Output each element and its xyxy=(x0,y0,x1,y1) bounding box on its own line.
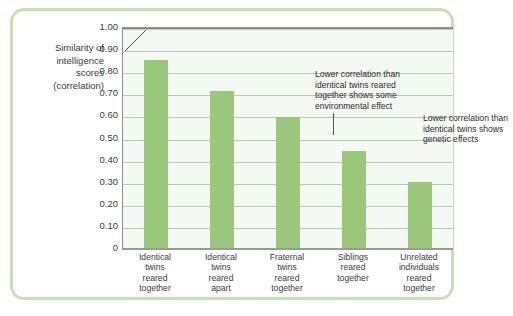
bar-slot xyxy=(321,29,387,250)
y-axis-tick-label: 0.30 xyxy=(88,176,118,187)
annotation-environmental-effect: Lower correlation than identical twins r… xyxy=(315,69,439,111)
bar xyxy=(210,91,234,250)
annotation-leader-line-0 xyxy=(333,113,334,135)
y-axis-tick-label: 0.50 xyxy=(88,132,118,143)
y-axis-tick-label: 0.80 xyxy=(88,65,118,76)
bar xyxy=(408,182,432,251)
x-axis-category-label: Siblings reared together xyxy=(320,252,386,283)
y-axis-tick-label: 0.70 xyxy=(88,87,118,98)
annotation-genetic-effects: Lower correlation than identical twins s… xyxy=(423,113,513,145)
x-axis-category-label: Fraternal twins reared together xyxy=(254,252,320,294)
bar xyxy=(342,151,366,250)
y-axis-tick-label: 0.40 xyxy=(88,154,118,165)
x-axis-category-label: Identical twins reared together xyxy=(122,252,188,294)
y-axis-tick-label: 1.00 xyxy=(88,21,118,32)
y-axis-tick-label: 0.90 xyxy=(88,43,118,54)
bar-slot xyxy=(255,29,321,250)
bar xyxy=(144,60,168,250)
y-axis-tick-label: 0.20 xyxy=(88,198,118,209)
y-axis-tick-label: 0.60 xyxy=(88,109,118,120)
plot-area: Lower correlation than identical twins r… xyxy=(122,27,453,250)
y-axis-tick-labels: 1.000.900.800.700.600.500.400.300.200.10… xyxy=(84,27,118,248)
x-axis-category-labels: Identical twins reared togetherIdentical… xyxy=(122,252,452,308)
x-axis-baseline xyxy=(122,248,453,250)
bar xyxy=(276,117,300,250)
y-axis-tick-label: 0 xyxy=(88,242,118,253)
bar-slot xyxy=(189,29,255,250)
bar-slot xyxy=(123,29,189,250)
y-axis-tick-label: 0.10 xyxy=(88,220,118,231)
x-axis-category-label: Unrelated individuals reared together xyxy=(386,252,452,294)
x-axis-category-label: Identical twins reared apart xyxy=(188,252,254,294)
